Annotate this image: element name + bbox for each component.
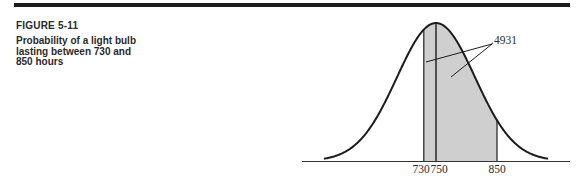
shaded-area-730-850 — [424, 23, 497, 161]
probability-annotation: .4931 — [491, 34, 517, 46]
tick-label-730: 730 — [412, 163, 430, 175]
tick-label-850: 850 — [488, 163, 506, 175]
normal-curve-chart: .4931 730 750 850 — [0, 0, 582, 188]
tick-label-750: 750 — [430, 163, 448, 175]
